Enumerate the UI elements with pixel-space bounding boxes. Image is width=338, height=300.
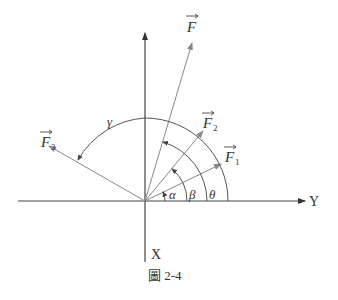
vector-f: [145, 43, 192, 201]
svg-text:F: F: [40, 134, 51, 150]
label-theta: θ: [209, 187, 216, 202]
label-f2: F 2: [202, 111, 218, 133]
label-f1: F 1: [224, 145, 240, 167]
vertical-axis-label: X: [151, 247, 161, 262]
label-f3: F 3: [40, 130, 56, 152]
force-diagram: F F 2 F 1 F 3 α β θ γ Y X 圖 2-4: [0, 0, 338, 300]
label-beta: β: [188, 187, 196, 202]
label-f: F: [186, 14, 198, 35]
svg-text:F: F: [202, 115, 213, 131]
svg-text:F: F: [186, 19, 197, 35]
figure-caption: 圖 2-4: [148, 268, 182, 283]
svg-text:3: 3: [51, 142, 56, 152]
arc-alpha: [163, 192, 165, 201]
horizontal-axis-label: Y: [309, 194, 319, 209]
svg-text:2: 2: [213, 123, 218, 133]
svg-text:1: 1: [235, 157, 240, 167]
label-alpha: α: [169, 187, 177, 202]
svg-text:F: F: [224, 149, 235, 165]
vector-f3: [49, 146, 145, 201]
label-gamma: γ: [107, 114, 113, 129]
